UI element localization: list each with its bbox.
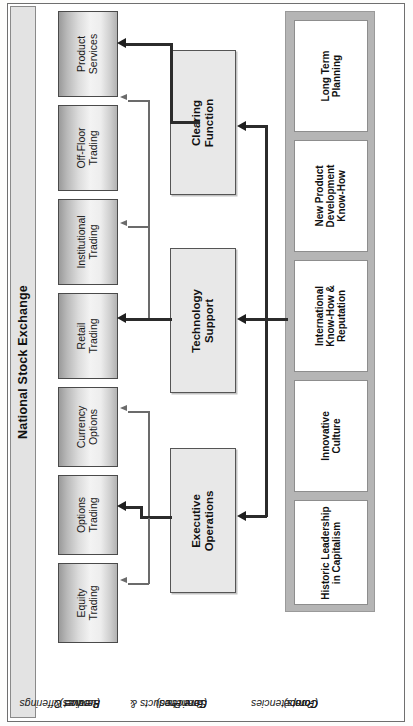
connector-to-equity-trading [128, 583, 149, 585]
root-label: Long Term Planning [320, 51, 342, 102]
arrowhead-off-floor-icon [120, 94, 127, 100]
connector-to-currency-options [128, 411, 149, 413]
caption-line: (Roots) [284, 697, 318, 710]
leaf-box-institutional-trading[interactable]: Institutional Trading [58, 199, 118, 285]
arrowhead-executive-operations-icon [237, 511, 246, 521]
leaf-label: Currency Options [76, 406, 100, 449]
roots-container: Long Term Planning New Product Developme… [285, 11, 375, 612]
figure-title-band: National Stock Exchange [10, 6, 36, 718]
arrowhead-currency-options-icon [120, 405, 127, 411]
arrowhead-equity-trading-icon [120, 577, 127, 583]
connector-clearing-to-product-services-v [170, 43, 173, 123]
connector-roots-to-clearing [246, 125, 267, 128]
connector-clearing-to-product-services-h2 [170, 121, 200, 124]
connector-roots-to-technology [246, 318, 288, 321]
connector-executive-to-options-h2 [126, 506, 142, 509]
connector-trunk-lower [148, 411, 150, 519]
arrowhead-technology-support-icon [237, 314, 246, 324]
root-box-historic-leadership-in-capitalism[interactable]: Historic Leadership in Capitalism [294, 500, 368, 605]
branch-label: Technology Support [190, 289, 216, 353]
leaf-label: Off-Floor Trading [76, 127, 100, 168]
leaf-box-product-services[interactable]: Product Services [58, 11, 118, 97]
leaf-box-retail-trading[interactable]: Retail Trading [58, 293, 118, 379]
root-box-innovative-culture[interactable]: Innovative Culture [294, 380, 368, 492]
root-box-long-term-planning[interactable]: Long Term Planning [294, 20, 368, 132]
root-box-international-know-how-reputation[interactable]: International Know-How & Reputation [294, 260, 368, 372]
leaf-label: Product Services [76, 34, 100, 74]
connector-roots-to-executive [246, 515, 267, 518]
root-label: International Know-How & Reputation [314, 285, 348, 347]
page-title: National Stock Exchange [16, 285, 30, 439]
branch-label: Executive Operations [190, 490, 216, 551]
leaf-label: Institutional Trading [76, 215, 100, 268]
connector-roots-trunk [265, 125, 268, 517]
caption-line: (Leaves) [59, 697, 100, 710]
connector-to-off-floor [128, 100, 149, 102]
arrowhead-retail-trading-icon [117, 313, 126, 323]
leaf-label: Retail Trading [76, 318, 100, 353]
connector-clearing-to-product-services-h1 [126, 43, 172, 46]
arrowhead-institutional-icon [120, 220, 127, 226]
root-label: New Product Development Know-How [314, 165, 348, 228]
connector-to-institutional [128, 226, 149, 228]
leaf-label: Options Trading [76, 497, 100, 533]
leaf-box-equity-trading[interactable]: Equity Trading [58, 563, 118, 643]
root-box-new-product-development-know-how[interactable]: New Product Development Know-How [294, 140, 368, 252]
branch-box-technology-support[interactable]: Technology Support [170, 248, 236, 393]
leaf-box-options-trading[interactable]: Options Trading [58, 475, 118, 555]
arrowhead-clearing-function-icon [237, 121, 246, 131]
arrowhead-product-services-icon [117, 38, 126, 48]
connector-trunk-equity [148, 518, 150, 584]
figure-canvas: National Stock Exchange Product Services… [0, 0, 413, 726]
caption-line: (Branches) [156, 697, 207, 710]
connector-technology-to-retail [126, 318, 172, 321]
leaf-box-currency-options[interactable]: Currency Options [58, 387, 118, 467]
leaf-box-off-floor-trading[interactable]: Off-Floor Trading [58, 105, 118, 191]
leaf-label: Equity Trading [76, 585, 100, 620]
branch-box-executive-operations[interactable]: Executive Operations [170, 448, 236, 593]
root-label: Innovative Culture [320, 411, 342, 460]
connector-trunk-upper [148, 100, 150, 319]
connector-executive-to-options-h [140, 516, 172, 519]
arrowhead-options-trading-icon [117, 501, 126, 511]
root-label: Historic Leadership in Capitalism [320, 506, 342, 599]
